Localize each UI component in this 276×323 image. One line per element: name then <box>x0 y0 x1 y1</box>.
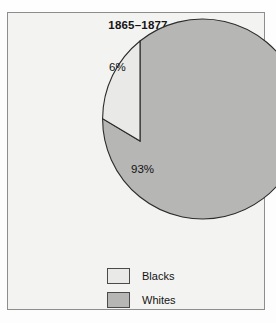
pie-chart-figure: 1865–1877 6% 93% Blacks Whites <box>0 0 276 323</box>
legend: Blacks Whites <box>107 265 176 313</box>
legend-label-blacks: Blacks <box>142 270 174 282</box>
legend-item-blacks[interactable]: Blacks <box>107 265 176 286</box>
legend-swatch-whites <box>107 292 130 308</box>
legend-swatch-blacks <box>107 268 130 284</box>
pie-label-whites: 93% <box>131 163 154 175</box>
legend-label-whites: Whites <box>142 294 176 306</box>
pie-label-blacks: 6% <box>109 61 126 73</box>
legend-item-whites[interactable]: Whites <box>107 289 176 310</box>
